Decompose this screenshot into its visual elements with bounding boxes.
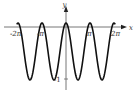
x-tick-label-pi: π xyxy=(86,30,92,38)
x-tick-label-2pi: 2π xyxy=(110,30,120,38)
x-axis-label: x xyxy=(129,24,133,32)
x-axis-arrow-icon xyxy=(121,25,127,29)
x-tick-label-neg2pi: -2π xyxy=(10,30,22,38)
function-graph: x y -1 -2π -π π 2π xyxy=(0,0,136,96)
x-tick-label-negpi: -π xyxy=(37,30,44,38)
